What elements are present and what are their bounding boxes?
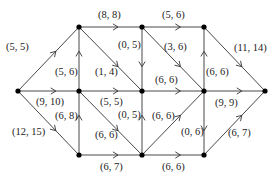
edge-label: (5, 5) (6, 41, 29, 53)
node-F (201, 88, 206, 93)
flow-network-diagram: (5, 5)(8, 8)(5, 6)(11, 14)(5, 6)(1, 4)(0… (0, 0, 280, 180)
edge-label: (9, 10) (36, 96, 64, 108)
edge-label: (6, 6) (155, 74, 178, 86)
edge-label: (8, 8) (98, 9, 121, 21)
edge-label: (5, 6) (55, 66, 78, 78)
node-D (76, 88, 81, 93)
edge-label: (11, 14) (234, 42, 267, 54)
edge-label: (0, 5) (118, 109, 141, 121)
edge-label: (6, 6) (95, 129, 118, 141)
node-G (76, 152, 81, 157)
node-C (201, 24, 206, 29)
edge-label: (6, 7) (100, 161, 123, 173)
node-H (139, 152, 144, 157)
edge-A-E (79, 27, 142, 91)
edge-label: (1, 4) (95, 66, 118, 78)
edge-label: (12, 15) (12, 126, 46, 138)
edge-label: (6, 6) (152, 110, 175, 122)
node-A (76, 24, 81, 29)
edge-C-t (204, 27, 265, 91)
edge-H-F (142, 91, 204, 155)
node-s (15, 88, 20, 93)
node-E (139, 88, 144, 93)
edge-label: (6, 7) (228, 127, 251, 139)
edge-label: (6, 6) (162, 161, 185, 173)
node-t (262, 88, 267, 93)
edge-label: (6, 8) (55, 110, 78, 122)
edge-label: (9, 9) (215, 97, 238, 109)
node-B (139, 24, 144, 29)
edge-label: (3, 6) (164, 41, 187, 53)
edge-label: (0, 5) (118, 39, 141, 51)
edge-label: (5, 5) (100, 96, 123, 108)
edge-s-A (18, 27, 79, 91)
edge-label: (0, 6) (181, 126, 204, 138)
edge-label: (6, 6) (206, 66, 229, 78)
edge-label: (5, 6) (162, 9, 185, 21)
node-I (201, 152, 206, 157)
